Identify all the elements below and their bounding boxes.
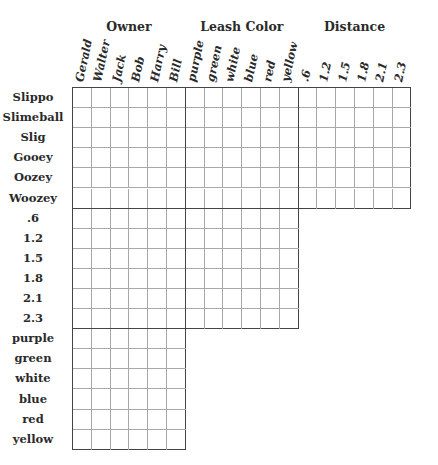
- grid-cell-gooey-walter[interactable]: [92, 148, 111, 168]
- grid-cell-6-red[interactable]: [261, 209, 280, 229]
- grid-cell-red-harry[interactable]: [148, 410, 167, 430]
- grid-cell-gooey-jack[interactable]: [111, 148, 130, 168]
- grid-cell-1-8-red[interactable]: [261, 269, 280, 289]
- grid-cell-blue-bill[interactable]: [167, 389, 186, 409]
- grid-cell-woozey-1-2[interactable]: [317, 189, 336, 209]
- grid-cell-6-blue[interactable]: [242, 209, 261, 229]
- grid-cell-woozey-green[interactable]: [205, 189, 224, 209]
- grid-cell-slimeball-bill[interactable]: [167, 108, 186, 128]
- grid-cell-oozey-2-1[interactable]: [374, 168, 393, 188]
- grid-cell-1-5-purple[interactable]: [186, 249, 205, 269]
- grid-cell-gooey-2-3[interactable]: [393, 148, 412, 168]
- grid-cell-blue-gerald[interactable]: [73, 389, 92, 409]
- grid-cell-woozey-red[interactable]: [261, 189, 280, 209]
- grid-cell-slippo-harry[interactable]: [148, 88, 167, 108]
- grid-cell-slippo-white[interactable]: [223, 88, 242, 108]
- grid-cell-gooey-gerald[interactable]: [73, 148, 92, 168]
- grid-cell-6-gerald[interactable]: [73, 209, 92, 229]
- grid-cell-yellow-walter[interactable]: [92, 430, 111, 450]
- grid-cell-2-1-blue[interactable]: [242, 289, 261, 309]
- grid-cell-oozey-1-5[interactable]: [336, 168, 355, 188]
- grid-cell-6-green[interactable]: [205, 209, 224, 229]
- grid-cell-slimeball-white[interactable]: [223, 108, 242, 128]
- grid-cell-2-3-yellow[interactable]: [280, 309, 299, 329]
- grid-cell-6-yellow[interactable]: [280, 209, 299, 229]
- grid-cell-1-2-white[interactable]: [223, 229, 242, 249]
- grid-cell-gooey-1-2[interactable]: [317, 148, 336, 168]
- grid-cell-slig-purple[interactable]: [186, 128, 205, 148]
- grid-cell-slippo-1-8[interactable]: [355, 88, 374, 108]
- grid-cell-1-8-bob[interactable]: [129, 269, 148, 289]
- grid-cell-slig-2-3[interactable]: [393, 128, 412, 148]
- grid-cell-slimeball-jack[interactable]: [111, 108, 130, 128]
- grid-cell-woozey-harry[interactable]: [148, 189, 167, 209]
- grid-cell-oozey-yellow[interactable]: [280, 168, 299, 188]
- grid-cell-yellow-harry[interactable]: [148, 430, 167, 450]
- grid-cell-slig-yellow[interactable]: [280, 128, 299, 148]
- grid-cell-1-8-walter[interactable]: [92, 269, 111, 289]
- grid-cell-woozey-1-8[interactable]: [355, 189, 374, 209]
- grid-cell-oozey-gerald[interactable]: [73, 168, 92, 188]
- grid-cell-1-2-harry[interactable]: [148, 229, 167, 249]
- grid-cell-gooey-6[interactable]: [299, 148, 318, 168]
- grid-cell-1-5-red[interactable]: [261, 249, 280, 269]
- grid-cell-slimeball-6[interactable]: [299, 108, 318, 128]
- grid-cell-woozey-1-5[interactable]: [336, 189, 355, 209]
- grid-cell-slig-white[interactable]: [223, 128, 242, 148]
- grid-cell-woozey-jack[interactable]: [111, 189, 130, 209]
- grid-cell-slig-bob[interactable]: [129, 128, 148, 148]
- grid-cell-gooey-1-5[interactable]: [336, 148, 355, 168]
- grid-cell-purple-gerald[interactable]: [73, 329, 92, 349]
- grid-cell-1-8-harry[interactable]: [148, 269, 167, 289]
- grid-cell-slimeball-gerald[interactable]: [73, 108, 92, 128]
- grid-cell-woozey-bill[interactable]: [167, 189, 186, 209]
- grid-cell-red-walter[interactable]: [92, 410, 111, 430]
- grid-cell-white-bob[interactable]: [129, 369, 148, 389]
- grid-cell-slimeball-blue[interactable]: [242, 108, 261, 128]
- grid-cell-green-jack[interactable]: [111, 349, 130, 369]
- grid-cell-slimeball-red[interactable]: [261, 108, 280, 128]
- grid-cell-2-3-harry[interactable]: [148, 309, 167, 329]
- grid-cell-6-bill[interactable]: [167, 209, 186, 229]
- grid-cell-slippo-2-3[interactable]: [393, 88, 412, 108]
- grid-cell-white-harry[interactable]: [148, 369, 167, 389]
- grid-cell-green-gerald[interactable]: [73, 349, 92, 369]
- grid-cell-slippo-bob[interactable]: [129, 88, 148, 108]
- grid-cell-slippo-gerald[interactable]: [73, 88, 92, 108]
- grid-cell-yellow-gerald[interactable]: [73, 430, 92, 450]
- grid-cell-yellow-jack[interactable]: [111, 430, 130, 450]
- grid-cell-slippo-1-2[interactable]: [317, 88, 336, 108]
- grid-cell-slippo-bill[interactable]: [167, 88, 186, 108]
- grid-cell-2-1-bill[interactable]: [167, 289, 186, 309]
- grid-cell-1-5-gerald[interactable]: [73, 249, 92, 269]
- grid-cell-woozey-yellow[interactable]: [280, 189, 299, 209]
- grid-cell-slimeball-green[interactable]: [205, 108, 224, 128]
- grid-cell-blue-bob[interactable]: [129, 389, 148, 409]
- grid-cell-2-3-white[interactable]: [223, 309, 242, 329]
- grid-cell-1-8-gerald[interactable]: [73, 269, 92, 289]
- grid-cell-white-gerald[interactable]: [73, 369, 92, 389]
- grid-cell-yellow-bill[interactable]: [167, 430, 186, 450]
- grid-cell-1-8-blue[interactable]: [242, 269, 261, 289]
- grid-cell-1-5-jack[interactable]: [111, 249, 130, 269]
- grid-cell-1-2-red[interactable]: [261, 229, 280, 249]
- grid-cell-gooey-1-8[interactable]: [355, 148, 374, 168]
- grid-cell-red-gerald[interactable]: [73, 410, 92, 430]
- grid-cell-woozey-bob[interactable]: [129, 189, 148, 209]
- grid-cell-2-3-gerald[interactable]: [73, 309, 92, 329]
- grid-cell-1-5-harry[interactable]: [148, 249, 167, 269]
- grid-cell-oozey-2-3[interactable]: [393, 168, 412, 188]
- grid-cell-2-1-walter[interactable]: [92, 289, 111, 309]
- grid-cell-slig-6[interactable]: [299, 128, 318, 148]
- grid-cell-2-1-bob[interactable]: [129, 289, 148, 309]
- grid-cell-slippo-6[interactable]: [299, 88, 318, 108]
- grid-cell-woozey-walter[interactable]: [92, 189, 111, 209]
- grid-cell-oozey-6[interactable]: [299, 168, 318, 188]
- grid-cell-1-8-yellow[interactable]: [280, 269, 299, 289]
- grid-cell-slig-jack[interactable]: [111, 128, 130, 148]
- grid-cell-1-8-green[interactable]: [205, 269, 224, 289]
- grid-cell-white-bill[interactable]: [167, 369, 186, 389]
- grid-cell-2-3-blue[interactable]: [242, 309, 261, 329]
- grid-cell-1-2-bob[interactable]: [129, 229, 148, 249]
- grid-cell-2-3-bob[interactable]: [129, 309, 148, 329]
